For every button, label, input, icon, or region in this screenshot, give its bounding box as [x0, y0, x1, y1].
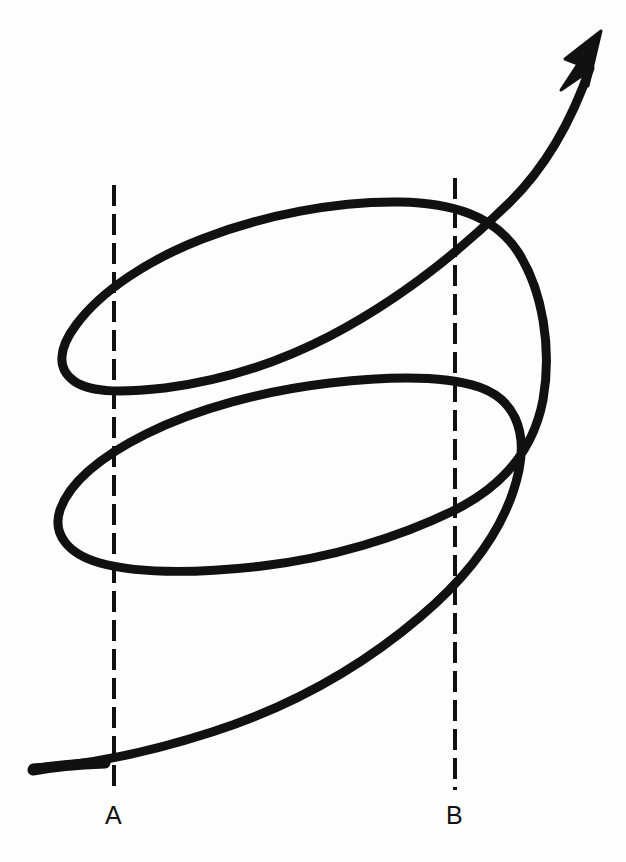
curve-tail-cap — [33, 763, 105, 770]
reference-label-b: B — [446, 803, 463, 828]
reference-label-a: A — [105, 803, 122, 828]
figure-canvas: A B — [0, 0, 626, 862]
spiral-diagram-svg — [0, 0, 626, 862]
